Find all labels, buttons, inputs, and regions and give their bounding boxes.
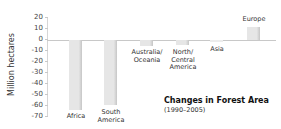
- bar-europe: [247, 27, 260, 40]
- y-tick-mark: [45, 17, 48, 18]
- y-tick-label: 20: [25, 13, 43, 21]
- bar-north-central-america: [176, 40, 189, 45]
- y-tick-label: -10: [25, 46, 43, 54]
- y-tick-mark: [45, 39, 48, 40]
- bar-south-america: [104, 40, 117, 105]
- y-tick-mark: [45, 116, 48, 117]
- y-axis-line: [47, 17, 48, 116]
- category-label-asia: Asia: [195, 46, 239, 54]
- y-tick-mark: [45, 72, 48, 73]
- forest-area-chart: Million hectares 20 10 0 -10 -20 -30 -40…: [0, 0, 281, 129]
- chart-subtitle: (1990–2005): [164, 106, 205, 114]
- y-tick-label: -40: [25, 79, 43, 87]
- y-axis-label: Million hectares: [7, 30, 16, 100]
- y-tick-mark: [45, 61, 48, 62]
- y-tick-label: -20: [25, 57, 43, 65]
- category-label-south-america: South America: [89, 109, 133, 124]
- bar-africa: [69, 40, 82, 110]
- y-tick-label: -60: [25, 101, 43, 109]
- y-tick-label: -50: [25, 90, 43, 98]
- category-label-europe: Europe: [232, 16, 276, 24]
- y-tick-mark: [45, 28, 48, 29]
- y-tick-mark: [45, 94, 48, 95]
- bar-australia-oceania: [140, 40, 153, 46]
- chart-title: Changes in Forest Area: [164, 96, 269, 105]
- y-tick-mark: [45, 83, 48, 84]
- y-tick-label: -70: [25, 112, 43, 120]
- y-tick-mark: [45, 105, 48, 106]
- y-tick-label: -30: [25, 68, 43, 76]
- y-tick-label: 10: [25, 24, 43, 32]
- y-tick-mark: [45, 50, 48, 51]
- bar-asia: [210, 40, 223, 42]
- y-tick-label: 0: [25, 35, 43, 43]
